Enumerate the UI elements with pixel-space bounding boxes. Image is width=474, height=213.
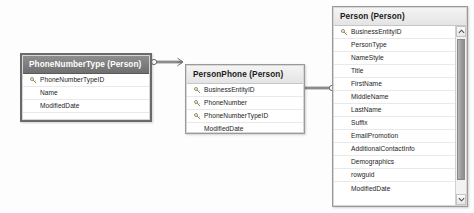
table-row[interactable]: PhoneNumber <box>187 97 303 110</box>
table-row[interactable]: EmailPromotion <box>334 130 455 143</box>
crowsfoot-endpoint-icon <box>178 58 184 66</box>
table-row[interactable]: ModifiedDate <box>23 100 149 113</box>
column-name: ModifiedDate <box>40 102 79 110</box>
column-name: Demographics <box>351 158 394 166</box>
diagram-canvas[interactable]: PhoneNumberType (Person) PhoneNumberType… <box>0 0 474 213</box>
scroll-up-arrow-icon[interactable] <box>456 26 466 37</box>
table-phonenumbertype-title[interactable]: PhoneNumberType (Person) <box>23 56 149 74</box>
table-personphone-inner: PersonPhone (Person) BusinessEntityID <box>186 65 304 133</box>
table-personphone[interactable]: PersonPhone (Person) BusinessEntityID <box>185 64 305 134</box>
key-icon <box>191 87 204 94</box>
key-icon <box>338 29 351 36</box>
table-row[interactable]: NameStyle <box>334 52 455 65</box>
table-personphone-columns: BusinessEntityID PhoneNumber <box>187 84 303 132</box>
column-name: rowguid <box>351 171 374 179</box>
table-row[interactable]: PhoneNumberTypeID <box>23 74 149 87</box>
scrollbar-track[interactable] <box>456 37 466 194</box>
table-row[interactable] <box>23 113 149 119</box>
table-row[interactable]: PhoneNumberTypeID <box>187 110 303 123</box>
table-personphone-title[interactable]: PersonPhone (Person) <box>187 66 303 84</box>
column-name: MiddleName <box>351 93 389 101</box>
table-row[interactable]: Suffix <box>334 117 455 130</box>
column-name: BusinessEntityID <box>204 86 255 94</box>
key-icon <box>191 113 204 120</box>
scroll-down-arrow-icon[interactable] <box>456 194 466 205</box>
key-icon <box>27 77 40 84</box>
table-row[interactable]: MiddleName <box>334 91 455 104</box>
table-row[interactable]: ModifiedDate <box>334 182 455 195</box>
relationship-line-svg <box>150 55 186 69</box>
column-name: AdditionalContactInfo <box>351 145 415 153</box>
column-name: Title <box>351 67 363 75</box>
table-personphone-body: BusinessEntityID PhoneNumber <box>187 84 303 132</box>
column-name: PersonType <box>351 41 387 49</box>
column-name: ModifiedDate <box>351 185 390 193</box>
table-row[interactable]: AdditionalContactInfo <box>334 143 455 156</box>
table-row[interactable]: Title <box>334 65 455 78</box>
key-icon <box>191 100 204 107</box>
column-name: Suffix <box>351 119 368 127</box>
scrollbar-thumb[interactable] <box>457 39 465 180</box>
table-person[interactable]: Person (Person) BusinessEntityID <box>332 6 468 207</box>
column-name: BusinessEntityID <box>351 28 402 36</box>
column-name: PhoneNumber <box>204 99 247 107</box>
table-person-title[interactable]: Person (Person) <box>334 8 466 26</box>
table-row[interactable]: rowguid <box>334 169 455 182</box>
table-row[interactable]: BusinessEntityID <box>187 84 303 97</box>
column-name: PhoneNumberTypeID <box>204 112 268 120</box>
table-phonenumbertype-body: PhoneNumberTypeID Name ModifiedDate <box>23 74 149 119</box>
circle-endpoint-icon <box>151 59 156 64</box>
column-name: Name <box>40 89 58 97</box>
column-name: PhoneNumberTypeID <box>40 76 104 84</box>
table-row[interactable]: PersonType <box>334 39 455 52</box>
table-person-scrollbar[interactable] <box>455 26 466 205</box>
table-phonenumbertype[interactable]: PhoneNumberType (Person) PhoneNumberType… <box>20 53 152 122</box>
table-person-inner: Person (Person) BusinessEntityID <box>333 7 467 206</box>
column-name: ModifiedDate <box>204 125 243 132</box>
table-row[interactable]: BusinessEntityID <box>334 26 455 39</box>
table-row[interactable]: Name <box>23 87 149 100</box>
column-name: EmailPromotion <box>351 132 398 140</box>
table-row[interactable]: LastName <box>334 104 455 117</box>
relationship-phonenumbertype-personphone[interactable] <box>150 55 186 69</box>
table-row[interactable]: Demographics <box>334 156 455 169</box>
table-phonenumbertype-inner: PhoneNumberType (Person) PhoneNumberType… <box>22 55 150 120</box>
column-name: FirstName <box>351 80 382 88</box>
table-person-columns: BusinessEntityID PersonType NameStyle Ti… <box>334 26 455 205</box>
table-row[interactable]: ModifiedDate <box>187 123 303 132</box>
table-person-body: BusinessEntityID PersonType NameStyle Ti… <box>334 26 466 205</box>
column-name: NameStyle <box>351 54 384 62</box>
table-row[interactable]: FirstName <box>334 78 455 91</box>
column-name: LastName <box>351 106 381 114</box>
table-phonenumbertype-columns: PhoneNumberTypeID Name ModifiedDate <box>23 74 149 119</box>
